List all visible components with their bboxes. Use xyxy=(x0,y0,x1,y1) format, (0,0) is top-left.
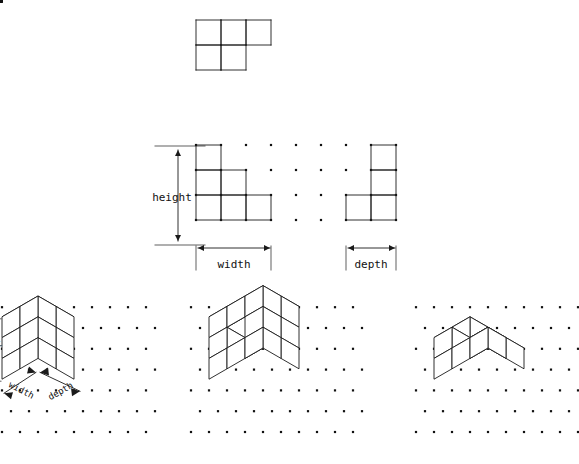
iso-grid-dot-2 xyxy=(559,389,561,391)
iso-grid-dot-0 xyxy=(109,348,111,350)
iso-grid-dot-1 xyxy=(190,389,192,391)
iso-grid-dot-1 xyxy=(199,369,201,371)
ortho-grid-dot xyxy=(245,144,247,146)
height-dimension-arrowhead xyxy=(175,150,181,156)
iso-grid-dot-0 xyxy=(136,369,138,371)
iso-grid-dot-1 xyxy=(190,306,192,308)
iso-grid-dot-2 xyxy=(487,431,489,433)
iso-grid-dot-2 xyxy=(541,348,543,350)
iso-grid-dot-2 xyxy=(550,410,552,412)
iso-grid-dot-2 xyxy=(424,369,426,371)
ortho-grid-dot xyxy=(295,169,297,171)
iso-grid-dot-1 xyxy=(190,431,192,433)
iso-grid-dot-2 xyxy=(559,306,561,308)
diagram-canvas: heightwidthdepthheightwidthdepth xyxy=(0,0,579,464)
iso-grid-dot-2 xyxy=(415,306,417,308)
iso-grid-dot-1 xyxy=(244,389,246,391)
iso-grid-dot-1 xyxy=(235,410,237,412)
geometry-diagram: heightwidthdepthheightwidthdepth xyxy=(0,0,579,464)
ortho-grid-dot xyxy=(270,144,272,146)
iso-grid-dot-0 xyxy=(127,306,129,308)
iso-grid-dot-1 xyxy=(343,410,345,412)
iso-grid-dot-1 xyxy=(316,348,318,350)
iso-grid-dot-0 xyxy=(1,431,3,433)
iso-grid-dot-2 xyxy=(523,431,525,433)
iso-grid-dot-0 xyxy=(91,431,93,433)
iso-grid-dot-2 xyxy=(469,389,471,391)
iso-grid-dot-1 xyxy=(325,369,327,371)
cube-right-face xyxy=(506,338,524,369)
iso-grid-dot-2 xyxy=(559,431,561,433)
iso-grid-dot-0 xyxy=(136,327,138,329)
iso-grid-dot-0 xyxy=(82,327,84,329)
iso-grid-dot-1 xyxy=(289,369,291,371)
iso-grid-dot-0 xyxy=(1,306,3,308)
iso-grid-dot-2 xyxy=(514,369,516,371)
iso-grid-dot-2 xyxy=(559,348,561,350)
height-dimension-arrowhead xyxy=(175,235,181,241)
iso-grid-dot-0 xyxy=(91,306,93,308)
depth-dimension-arrowhead xyxy=(389,245,395,251)
iso-grid-dot-2 xyxy=(433,431,435,433)
iso-grid-dot-2 xyxy=(442,327,444,329)
iso-grid-dot-0 xyxy=(154,369,156,371)
iso-grid-dot-1 xyxy=(226,389,228,391)
iso-grid-dot-1 xyxy=(361,327,363,329)
iso-grid-dot-0 xyxy=(82,410,84,412)
iso-grid-dot-1 xyxy=(361,410,363,412)
iso-grid-dot-0 xyxy=(145,431,147,433)
iso-grid-dot-1 xyxy=(217,410,219,412)
iso-grid-dot-0 xyxy=(118,410,120,412)
iso-grid-dot-1 xyxy=(334,348,336,350)
iso-grid-dot-1 xyxy=(343,327,345,329)
ortho-grid-dot xyxy=(320,144,322,146)
iso-grid-dot-2 xyxy=(514,410,516,412)
iso-grid-dot-0 xyxy=(55,431,57,433)
iso-grid-dot-1 xyxy=(280,389,282,391)
iso-grid-dot-1 xyxy=(262,431,264,433)
iso-grid-dot-1 xyxy=(334,306,336,308)
iso-grid-dot-1 xyxy=(316,431,318,433)
iso-grid-dot-2 xyxy=(523,389,525,391)
iso-grid-dot-2 xyxy=(487,306,489,308)
iso-grid-dot-2 xyxy=(469,431,471,433)
iso-grid-dot-0 xyxy=(109,306,111,308)
iso-width-arrowhead xyxy=(27,366,36,373)
iso-grid-dot-0 xyxy=(145,348,147,350)
iso-grid-dot-2 xyxy=(496,327,498,329)
iso-grid-dot-2 xyxy=(424,410,426,412)
iso-grid-dot-0 xyxy=(100,327,102,329)
iso-grid-dot-2 xyxy=(568,369,570,371)
iso-grid-dot-2 xyxy=(478,410,480,412)
iso-grid-dot-1 xyxy=(343,369,345,371)
iso-grid-dot-2 xyxy=(514,327,516,329)
iso-grid-dot-2 xyxy=(541,431,543,433)
iso-grid-dot-2 xyxy=(469,306,471,308)
iso-grid-dot-1 xyxy=(352,348,354,350)
iso-grid-dot-2 xyxy=(532,327,534,329)
iso-depth-label: depth xyxy=(46,380,75,402)
iso-grid-dot-2 xyxy=(478,369,480,371)
iso-grid-dot-1 xyxy=(352,431,354,433)
iso-grid-dot-0 xyxy=(154,327,156,329)
iso-grid-dot-1 xyxy=(352,306,354,308)
iso-grid-dot-0 xyxy=(37,389,39,391)
iso-grid-dot-1 xyxy=(298,389,300,391)
iso-grid-dot-2 xyxy=(415,431,417,433)
iso-grid-dot-0 xyxy=(118,369,120,371)
iso-grid-dot-0 xyxy=(118,327,120,329)
iso-grid-dot-2 xyxy=(487,389,489,391)
iso-grid-dot-0 xyxy=(73,431,75,433)
iso-grid-dot-2 xyxy=(424,327,426,329)
iso-grid-dot-2 xyxy=(532,410,534,412)
iso-grid-dot-0 xyxy=(91,389,93,391)
iso-grid-dot-0 xyxy=(82,369,84,371)
iso-grid-dot-0 xyxy=(109,431,111,433)
iso-grid-dot-2 xyxy=(451,306,453,308)
iso-grid-dot-2 xyxy=(433,389,435,391)
iso-grid-dot-1 xyxy=(352,389,354,391)
iso-grid-dot-0 xyxy=(100,410,102,412)
top-view-grid-dot xyxy=(0,0,2,2)
iso-grid-dot-0 xyxy=(73,306,75,308)
iso-grid-dot-1 xyxy=(334,431,336,433)
